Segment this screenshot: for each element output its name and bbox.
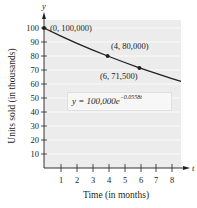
data-point-4 bbox=[106, 54, 110, 58]
point-label-0: (0, 100,000) bbox=[50, 23, 92, 33]
equation-exponent: −0.0558t bbox=[120, 94, 142, 100]
x-variable-label: t bbox=[192, 163, 195, 173]
x-tick-labels: 1 2 3 4 5 6 7 8 bbox=[59, 175, 174, 185]
y-tick-label: 60 bbox=[31, 79, 40, 89]
y-tick-label: 20 bbox=[31, 135, 40, 145]
x-tick-label: 1 bbox=[59, 175, 63, 185]
y-tick-label: 90 bbox=[31, 37, 40, 47]
x-tick-label: 6 bbox=[139, 175, 143, 185]
x-tick-label: 3 bbox=[91, 175, 95, 185]
y-tick-label: 40 bbox=[31, 107, 40, 117]
equation-base: y = 100,000e bbox=[72, 96, 120, 106]
y-tick-label: 50 bbox=[31, 93, 40, 103]
y-tick-label: 70 bbox=[31, 65, 40, 75]
y-variable-label: y bbox=[41, 1, 46, 11]
point-label-6: (6, 71,500) bbox=[100, 71, 138, 81]
x-tick-label: 2 bbox=[75, 175, 79, 185]
equation-label: y = 100,000e−0.0558t bbox=[72, 95, 142, 106]
y-tick-label: 100 bbox=[26, 23, 39, 33]
y-tick-label: 80 bbox=[31, 51, 40, 61]
x-tick-label: 7 bbox=[154, 175, 158, 185]
point-label-4: (4, 80,000) bbox=[111, 41, 149, 51]
y-axis-arrow-icon bbox=[42, 12, 46, 19]
y-tick-label: 10 bbox=[31, 149, 40, 159]
data-point-0 bbox=[42, 26, 46, 30]
y-tick-label: 30 bbox=[31, 121, 40, 131]
x-tick-label: 8 bbox=[170, 175, 174, 185]
x-tick-label: 4 bbox=[107, 175, 112, 185]
x-tick-label: 5 bbox=[123, 175, 127, 185]
x-axis-title: Time (in months) bbox=[83, 190, 149, 201]
data-point-6 bbox=[137, 66, 141, 70]
y-axis-title: Units sold (in thousands) bbox=[7, 48, 18, 143]
y-tick-labels: 10 20 30 40 50 60 70 80 90 100 bbox=[26, 23, 39, 159]
x-axis-arrow-icon bbox=[183, 166, 190, 170]
